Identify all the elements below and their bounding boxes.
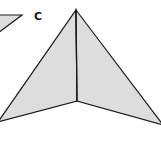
small-triangle-shape [0, 15, 22, 33]
right-face-shape [76, 10, 161, 125]
left-face-shape [0, 10, 77, 122]
geometry-diagram [0, 0, 161, 141]
vertex-label-c: C [34, 11, 42, 22]
